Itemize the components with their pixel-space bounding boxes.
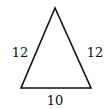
triangle-diagram: 12 12 10 [0, 0, 106, 109]
left-side-label: 12 [12, 45, 29, 60]
right-side-label: 12 [87, 45, 104, 60]
base-label: 10 [47, 93, 64, 108]
triangle [21, 8, 91, 88]
